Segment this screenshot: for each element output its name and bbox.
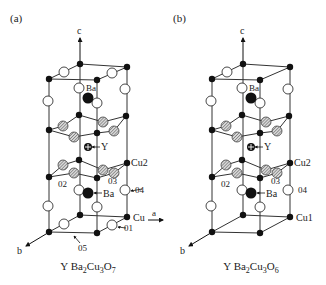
o-atom — [222, 67, 232, 77]
o5-label: 05 — [78, 243, 88, 253]
axis-c-label: c — [77, 25, 82, 36]
crystal-structure-diagram: (a) c Ba Y Cu2 02 03 Ba 04 Cu a 01 05 b … — [0, 0, 326, 285]
axis-b-label: b — [17, 245, 22, 256]
cu1-label: Cu1 — [296, 212, 313, 223]
panel-b: (b) c Ba Y Cu2 02 03 Ba 04 Cu1 b Y Ba2Cu… — [173, 12, 313, 275]
ba-top-label: Ba — [86, 83, 96, 93]
panel-a-label: (a) — [10, 12, 23, 25]
o4-label: 04 — [135, 185, 145, 195]
panel-b-label: (b) — [173, 12, 186, 25]
axis-c-label: c — [240, 25, 245, 36]
ba-bottom-label: Ba — [103, 188, 115, 199]
ba-bottom-label: Ba — [266, 188, 278, 199]
o1-atom — [107, 220, 117, 230]
y-label: Y — [101, 141, 108, 152]
axis-a-label: a — [152, 208, 156, 218]
caption-a: Y Ba2Cu3O7 — [60, 260, 115, 275]
o2-label: 02 — [58, 179, 67, 189]
o1-atom — [59, 219, 69, 229]
o1-label: 01 — [124, 223, 133, 233]
cu2-label: Cu2 — [131, 157, 148, 168]
o2-label: 02 — [221, 179, 230, 189]
ba-top-label: Ba — [249, 83, 259, 93]
o1-atom — [59, 67, 69, 77]
panel-a: (a) c Ba Y Cu2 02 03 Ba 04 Cu a 01 05 b … — [10, 12, 163, 275]
o3-label: 03 — [271, 176, 281, 186]
o3-label: 03 — [108, 176, 118, 186]
cu1-label: Cu — [133, 212, 145, 223]
cu2-label: Cu2 — [294, 157, 311, 168]
axis-b-label: b — [180, 245, 185, 256]
caption-b: Y Ba2Cu3O6 — [223, 260, 278, 275]
o1-atom — [107, 68, 117, 78]
o4-label: 04 — [298, 185, 308, 195]
y-label: Y — [264, 141, 271, 152]
